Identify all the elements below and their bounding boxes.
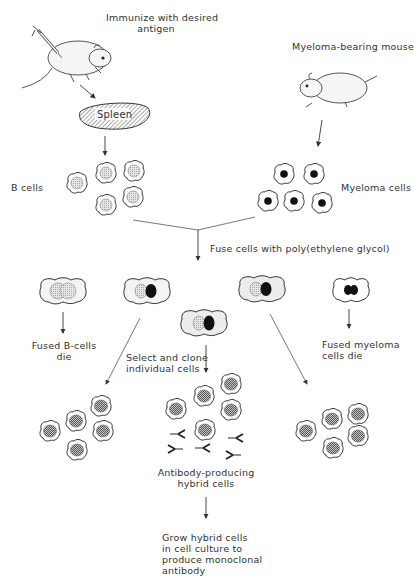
myeloma-mouse-illustration: [300, 73, 377, 107]
hybrid-cell-1: [124, 278, 170, 304]
clone-center-cluster: [166, 374, 241, 441]
immunized-mouse-illustration: [22, 26, 111, 98]
fused-myeloma-cell: [333, 278, 369, 302]
label-antibody-producing: Antibody-producing hybrid cells: [156, 467, 256, 489]
label-myeloma-cells: Myeloma cells: [341, 182, 411, 193]
label-immunize: Immunize with desired antigen: [106, 12, 206, 34]
label-b-cells: B cells: [11, 182, 43, 193]
label-grow: Grow hybrid cells in cell culture to pro…: [162, 532, 262, 576]
label-select-clone: Select and clone individual cells: [126, 352, 208, 374]
myeloma-cells-cluster: [258, 164, 332, 214]
label-fuse: Fuse cells with poly(ethylene glycol): [210, 243, 390, 254]
clone-right-cluster: [296, 404, 368, 459]
clone-left-cluster: [40, 396, 113, 461]
label-fused-b-die: Fused B-cells die: [30, 340, 98, 362]
hybrid-cell-2: [181, 310, 227, 336]
label-spleen: Spleen: [97, 109, 132, 120]
hybrid-cell-3: [239, 276, 285, 302]
b-cells-cluster: [67, 161, 144, 216]
label-fused-myeloma-die: Fused myeloma cells die: [322, 339, 400, 361]
label-myeloma-mouse: Myeloma-bearing mouse: [292, 41, 414, 52]
fused-b-b-cell: [40, 278, 86, 304]
